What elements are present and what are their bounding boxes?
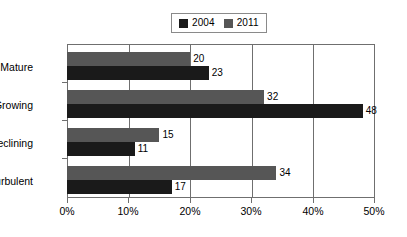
bar-chart: 2004 2011 20 23 32 48 15 bbox=[0, 0, 407, 237]
y-axis-tick-1 bbox=[62, 82, 67, 83]
x-axis-label-0: 0% bbox=[45, 205, 89, 217]
legend-swatch-2011-icon bbox=[224, 19, 233, 28]
x-axis-tick-40 bbox=[313, 198, 314, 203]
category-label-declining: Declining bbox=[0, 137, 33, 149]
x-axis-label-50: 50% bbox=[352, 205, 396, 217]
legend-label-2004: 2004 bbox=[192, 18, 215, 28]
bar-declining-2011 bbox=[67, 128, 159, 142]
x-axis-label-40: 40% bbox=[291, 205, 335, 217]
y-axis-tick-3 bbox=[62, 158, 67, 159]
bars-layer: 20 23 32 48 15 11 34 17 bbox=[67, 44, 375, 198]
bar-label-turbulent-2004: 17 bbox=[175, 180, 186, 194]
bar-mature-2011 bbox=[67, 52, 190, 66]
x-axis-tick-0 bbox=[67, 198, 68, 203]
y-axis-tick-2 bbox=[62, 120, 67, 121]
x-axis-tick-50 bbox=[374, 198, 375, 203]
x-axis-label-20: 20% bbox=[168, 205, 212, 217]
bar-label-turbulent-2011: 34 bbox=[279, 166, 290, 180]
bar-label-mature-2011: 20 bbox=[193, 52, 204, 66]
bar-label-declining-2011: 15 bbox=[162, 128, 173, 142]
x-axis-tick-10 bbox=[128, 198, 129, 203]
x-axis-label-30: 30% bbox=[229, 205, 273, 217]
legend-swatch-2004-icon bbox=[179, 19, 188, 28]
chart-legend: 2004 2011 bbox=[171, 13, 267, 33]
category-label-mature: Mature bbox=[0, 61, 33, 73]
bar-turbulent-2011 bbox=[67, 166, 276, 180]
bar-label-growing-2011: 32 bbox=[267, 90, 278, 104]
bar-turbulent-2004 bbox=[67, 180, 172, 194]
x-axis-tick-30 bbox=[251, 198, 252, 203]
category-label-growing: Growing bbox=[0, 99, 33, 111]
bar-label-declining-2004: 11 bbox=[138, 142, 148, 156]
bar-growing-2011 bbox=[67, 90, 264, 104]
x-axis-label-10: 10% bbox=[106, 205, 150, 217]
bar-mature-2004 bbox=[67, 66, 209, 80]
bar-declining-2004 bbox=[67, 142, 135, 156]
bar-label-mature-2004: 23 bbox=[212, 66, 223, 80]
bar-growing-2004 bbox=[67, 104, 363, 118]
x-axis-tick-20 bbox=[190, 198, 191, 203]
bar-label-growing-2004: 48 bbox=[366, 104, 377, 118]
legend-entry-2004: 2004 bbox=[179, 18, 215, 28]
legend-entry-2011: 2011 bbox=[224, 18, 259, 28]
category-label-turbulent: Turbulent bbox=[0, 175, 33, 187]
legend-label-2011: 2011 bbox=[237, 18, 259, 28]
